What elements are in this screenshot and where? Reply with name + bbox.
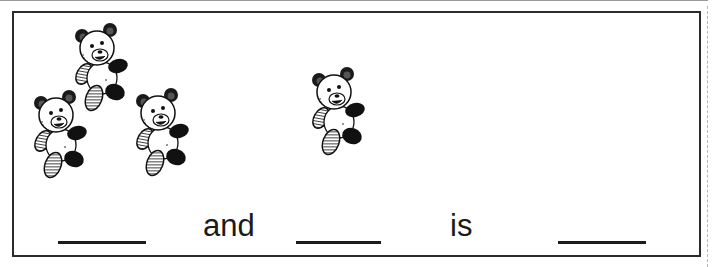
teddy-bear-icon (29, 89, 89, 179)
answer-blank-2[interactable] (296, 241, 381, 244)
answer-blank-3[interactable] (558, 241, 646, 244)
top-border-line (0, 0, 708, 1)
word-and: and (203, 208, 255, 244)
teddy-bear-icon (131, 87, 191, 177)
answer-blank-1[interactable] (58, 241, 146, 244)
word-is: is (450, 208, 472, 244)
teddy-bear-icon (307, 66, 367, 156)
dashed-cut-line (707, 6, 708, 267)
